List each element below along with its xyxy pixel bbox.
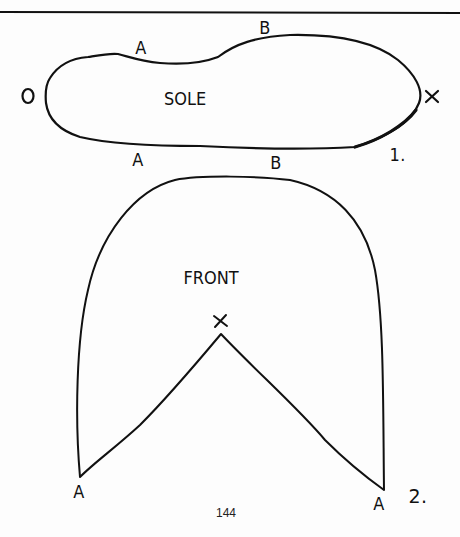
front-title: FRONT	[183, 270, 238, 287]
sole-ink-heavy	[355, 110, 416, 147]
heel-o-mark	[23, 89, 34, 103]
page-number: 144	[216, 507, 236, 519]
top-rule	[0, 12, 460, 13]
book-page: A B SOLE A B 1. FRONT A A 2. 144	[0, 0, 460, 537]
apex-x-mark	[214, 315, 227, 327]
front-label-right-a: A	[373, 496, 385, 513]
sole-outline	[46, 35, 421, 148]
sole-label-bottom-b: B	[270, 155, 282, 172]
sole-label-top-b: B	[259, 20, 271, 37]
figure-1-number: 1.	[389, 147, 405, 164]
sole-title: SOLE	[164, 91, 206, 108]
toe-x-mark	[426, 91, 438, 102]
sole-label-bottom-a: A	[132, 152, 144, 169]
sole-label-top-a: A	[135, 40, 147, 57]
front-label-left-a: A	[73, 484, 85, 501]
front-outline	[77, 177, 384, 490]
figure-2-number: 2.	[409, 486, 428, 506]
